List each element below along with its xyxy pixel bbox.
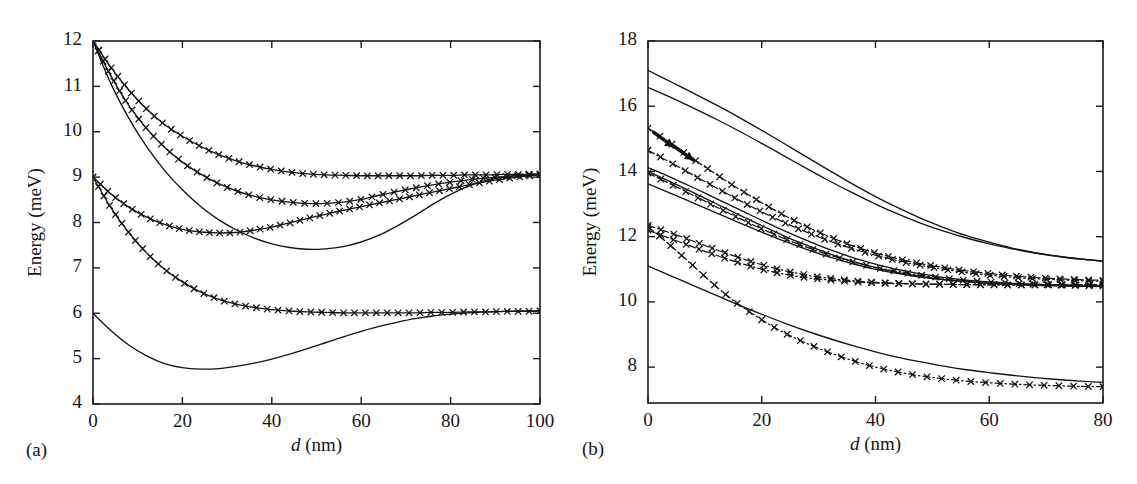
panel-b-ticks: 81012141618020406080 [618, 28, 1113, 429]
marker-x [689, 262, 695, 268]
marker-x [138, 211, 144, 217]
x-tick-label: 40 [262, 410, 281, 431]
marker-x [784, 331, 790, 337]
marker-x [216, 151, 222, 157]
x-tick-label: 80 [1094, 409, 1113, 430]
chart-panel-a: 456789101112020406080100Energy (meV)d (n… [0, 0, 568, 484]
y-tick-label: 5 [73, 346, 83, 367]
markers-b-dash-12_2 [645, 227, 1106, 288]
x-axis-title-symbol: d [291, 434, 301, 455]
marker-x [769, 214, 775, 220]
marker-x [201, 290, 207, 296]
y-tick-label: 12 [618, 224, 637, 245]
x-tick-label: 60 [352, 410, 371, 431]
marker-x [848, 245, 854, 251]
marker-x [741, 189, 747, 195]
panel-b-svg: 81012141618020406080Energy (meV)d (nm)(b… [568, 0, 1136, 484]
marker-x [111, 78, 117, 84]
y-tick-label: 12 [63, 28, 82, 49]
marker-x [711, 282, 717, 288]
marker-x [186, 137, 192, 143]
marker-x [732, 195, 738, 201]
marker-x [106, 202, 112, 208]
x-axis-title-unit: (nm) [300, 434, 342, 456]
marker-x [667, 242, 673, 248]
marker-x [766, 204, 772, 210]
y-tick-label: 7 [73, 255, 83, 276]
marker-x [838, 354, 844, 360]
marker-x [112, 195, 118, 201]
marker-x [125, 229, 131, 235]
marker-x [143, 125, 149, 131]
marker-x [811, 343, 817, 349]
marker-x [157, 219, 163, 225]
marker-x [175, 156, 181, 162]
panel-b-curves [645, 70, 1106, 390]
marker-x [720, 207, 726, 213]
marker-x [782, 220, 788, 226]
panel-a-ticks: 456789101112020406080100 [63, 28, 554, 430]
marker-x [747, 263, 753, 269]
panel-a-curves [90, 38, 543, 369]
marker-x [136, 116, 142, 122]
marker-x [696, 246, 702, 252]
marker-x [835, 241, 841, 247]
marker-x [95, 183, 101, 189]
marker-x [683, 241, 689, 247]
marker-x [778, 211, 784, 217]
marker-x [757, 208, 763, 214]
marker-x [709, 251, 715, 257]
marker-x [821, 236, 827, 242]
marker-x [121, 201, 127, 207]
marker-x [105, 188, 111, 194]
x-tick-label: 20 [752, 409, 771, 430]
marker-x [733, 213, 739, 219]
marker-x [196, 142, 202, 148]
marker-x [721, 255, 727, 261]
marker-x [129, 107, 135, 113]
y-tick-label: 9 [73, 164, 83, 185]
marker-x [771, 324, 777, 330]
x-axis-title-unit: (nm) [859, 433, 901, 455]
marker-x [657, 154, 663, 160]
marker-x [116, 88, 122, 94]
panel-a-plot-area [90, 38, 543, 404]
marker-x [923, 281, 929, 287]
marker-x [147, 253, 153, 259]
marker-x [194, 169, 200, 175]
markers-level-2-upper-12 [90, 38, 543, 207]
y-tick-label: 10 [618, 289, 637, 310]
markers-b-dash-13_9 [645, 170, 1106, 289]
marker-x [177, 132, 183, 138]
panel-b-axes-box [648, 41, 1103, 403]
x-tick-label: 60 [980, 409, 999, 430]
marker-x [159, 120, 165, 126]
marker-x [670, 161, 676, 167]
marker-x [704, 166, 710, 172]
y-tick-label: 10 [63, 119, 82, 140]
marker-x [694, 174, 700, 180]
panel-b-plot-area [645, 41, 1106, 403]
y-tick-label: 18 [618, 28, 637, 49]
marker-x [135, 98, 141, 104]
panel-b-x-axis-title: d (nm) [850, 433, 901, 455]
chart-panel-b: 81012141618020406080Energy (meV)d (nm)(b… [568, 0, 1136, 484]
marker-x [729, 181, 735, 187]
panel-a-y-axis-title: Energy (meV) [24, 168, 46, 277]
marker-x [722, 291, 728, 297]
markers-level-1-upper-12 [90, 38, 543, 179]
marker-x [817, 230, 823, 236]
marker-x [824, 349, 830, 355]
x-tick-label: 0 [88, 410, 98, 431]
marker-x [744, 201, 750, 207]
panel-a-x-axis-title: d (nm) [291, 434, 342, 456]
marker-x [155, 261, 161, 267]
y-tick-label: 11 [64, 74, 82, 95]
marker-x [791, 217, 797, 223]
marker-x [224, 184, 230, 190]
marker-x [683, 235, 689, 241]
marker-x [235, 188, 241, 194]
marker-x [678, 252, 684, 258]
marker-x [122, 97, 128, 103]
marker-x [758, 317, 764, 323]
